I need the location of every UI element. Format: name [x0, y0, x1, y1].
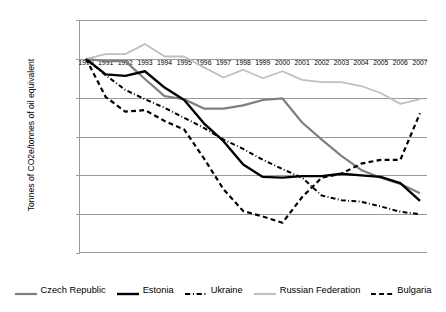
series-line-bulgaria	[86, 59, 420, 223]
legend-item-estonia[interactable]: Estonia	[117, 285, 174, 296]
series-line-ukraine	[86, 59, 420, 214]
legend-item-bulgaria[interactable]: Bulgaria	[371, 285, 431, 296]
y-axis-title: Tonnes of CO2e/tonnes of oil equivalent	[26, 45, 40, 225]
legend-label: Estonia	[143, 285, 174, 296]
legend-swatch-icon	[117, 285, 139, 295]
legend-label: Russian Federation	[280, 285, 361, 296]
legend-item-ukraine[interactable]: Ukraine	[185, 285, 243, 296]
legend-label: Ukraine	[211, 285, 243, 296]
legend-item-russian-federation[interactable]: Russian Federation	[254, 285, 361, 296]
legend-swatch-icon	[371, 285, 393, 295]
legend-swatch-icon	[254, 285, 276, 295]
legend-swatch-icon	[185, 285, 207, 295]
legend-label: Czech Republic	[41, 285, 106, 296]
legend-item-czech-republic[interactable]: Czech Republic	[15, 285, 106, 296]
series-line-estonia	[86, 59, 420, 201]
chart-legend: Czech RepublicEstoniaUkraineRussian Fede…	[0, 281, 446, 299]
series-line-czech-republic	[86, 59, 420, 193]
legend-swatch-icon	[15, 285, 37, 295]
y-axis-tickmark	[76, 253, 80, 254]
series-lines	[79, 20, 427, 253]
emissions-intensity-line-chart: Tonnes of CO2e/tonnes of oil equivalent …	[0, 0, 446, 312]
legend-label: Bulgaria	[397, 285, 431, 296]
